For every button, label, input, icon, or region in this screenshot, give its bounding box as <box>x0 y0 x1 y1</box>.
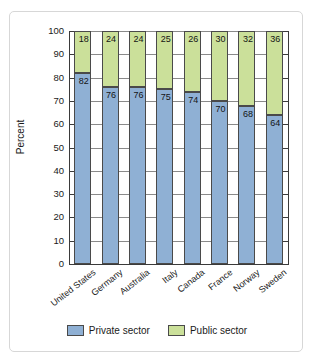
bar-group: 7030 <box>211 31 228 264</box>
bar-segment-public[interactable]: 30 <box>211 31 228 101</box>
y-tick-label: 40 <box>28 166 64 176</box>
bar-segment-public[interactable]: 24 <box>102 31 119 87</box>
bar-segment-public[interactable]: 26 <box>184 31 201 92</box>
y-tick-label: 0 <box>28 259 64 269</box>
legend-item[interactable]: Public sector <box>168 325 247 336</box>
bar-value-label-public: 30 <box>212 35 229 44</box>
bar-value-label-public: 36 <box>267 35 284 44</box>
bar-value-label-private: 76 <box>103 91 120 100</box>
y-tick-label: 100 <box>28 26 64 36</box>
bar-segment-private[interactable]: 82 <box>74 73 91 264</box>
bar-value-label-private: 64 <box>267 119 284 128</box>
legend-swatch-icon <box>168 325 185 336</box>
bar-segment-private[interactable]: 68 <box>238 106 255 264</box>
y-tick-label: 60 <box>28 119 64 129</box>
bar-segment-public[interactable]: 25 <box>156 31 173 89</box>
chart-legend: Private sectorPublic sector <box>10 325 304 336</box>
y-tick-label: 70 <box>28 96 64 106</box>
bar-group: 7624 <box>129 31 146 264</box>
bar-value-label-public: 26 <box>185 35 202 44</box>
chart-plot-wrapper: 0102030405060708090100 82187624762475257… <box>10 12 304 353</box>
x-axis-line <box>69 264 289 265</box>
bar-value-label-public: 24 <box>130 35 147 44</box>
bar-segment-public[interactable]: 32 <box>238 31 255 106</box>
plot-right-border <box>288 31 289 265</box>
bar-value-label-private: 82 <box>75 77 92 86</box>
bar-segment-private[interactable]: 64 <box>266 115 283 264</box>
bar-value-label-public: 18 <box>75 35 92 44</box>
bar-segment-public[interactable]: 18 <box>74 31 91 73</box>
plot-right-top-cap <box>282 31 288 32</box>
y-axis-title: Percent <box>16 102 26 172</box>
bar-group: 6832 <box>238 31 255 264</box>
bar-group: 8218 <box>74 31 91 264</box>
bar-segment-private[interactable]: 75 <box>156 89 173 264</box>
legend-label: Public sector <box>190 326 247 336</box>
bar-value-label-public: 32 <box>239 35 256 44</box>
bar-value-label-private: 76 <box>130 91 147 100</box>
bar-value-label-public: 24 <box>103 35 120 44</box>
y-tick-label: 10 <box>28 236 64 246</box>
bar-segment-private[interactable]: 76 <box>102 87 119 264</box>
bar-segment-private[interactable]: 70 <box>211 101 228 264</box>
bar-group: 6436 <box>266 31 283 264</box>
y-tick-label: 80 <box>28 73 64 83</box>
bar-group: 7525 <box>156 31 173 264</box>
bar-value-label-public: 25 <box>157 35 174 44</box>
bar-segment-public[interactable]: 36 <box>266 31 283 115</box>
y-tick-label: 90 <box>28 49 64 59</box>
bar-value-label-private: 70 <box>212 105 229 114</box>
bar-segment-private[interactable]: 76 <box>129 87 146 264</box>
bar-value-label-private: 74 <box>185 96 202 105</box>
y-tick-label: 30 <box>28 189 64 199</box>
bar-group: 7426 <box>184 31 201 264</box>
bar-group: 7624 <box>102 31 119 264</box>
chart-figure: 0102030405060708090100 82187624762475257… <box>9 11 303 352</box>
bar-value-label-private: 68 <box>239 110 256 119</box>
bar-segment-public[interactable]: 24 <box>129 31 146 87</box>
y-axis-line <box>69 31 70 265</box>
legend-item[interactable]: Private sector <box>67 325 150 336</box>
legend-swatch-icon <box>67 325 84 336</box>
bar-value-label-private: 75 <box>157 93 174 102</box>
bar-segment-private[interactable]: 74 <box>184 92 201 264</box>
y-tick-label: 20 <box>28 212 64 222</box>
y-tick-label: 50 <box>28 143 64 153</box>
legend-label: Private sector <box>89 326 150 336</box>
